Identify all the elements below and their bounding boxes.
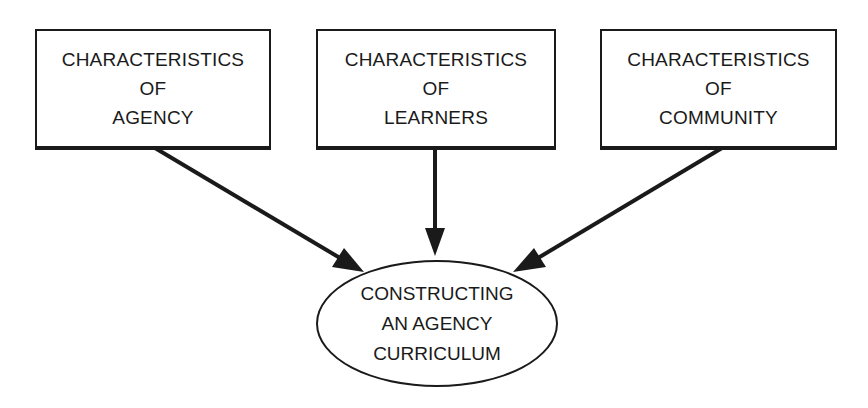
box-characteristics-of-learners: CHARACTERISTICS OF LEARNERS: [316, 29, 556, 150]
box-line: CHARACTERISTICS: [345, 45, 527, 74]
box-line: OF: [705, 74, 732, 103]
arrow-agency-to-curriculum: [155, 148, 364, 272]
ellipse-line: AN AGENCY: [382, 309, 493, 339]
box-line: OF: [423, 74, 450, 103]
box-line: CHARACTERISTICS: [627, 45, 809, 74]
ellipse-constructing-agency-curriculum: CONSTRUCTING AN AGENCY CURRICULUM: [316, 260, 558, 387]
box-line: LEARNERS: [384, 103, 488, 132]
arrow-learners-to-curriculum: [425, 148, 445, 256]
ellipse-line: CONSTRUCTING: [360, 279, 513, 309]
arrow-community-to-curriculum: [513, 148, 722, 272]
ellipse-line: CURRICULUM: [373, 339, 501, 369]
box-line: AGENCY: [112, 103, 193, 132]
box-characteristics-of-agency: CHARACTERISTICS OF AGENCY: [35, 29, 271, 150]
box-characteristics-of-community: CHARACTERISTICS OF COMMUNITY: [600, 29, 837, 150]
box-line: COMMUNITY: [659, 103, 778, 132]
box-line: OF: [140, 74, 167, 103]
box-line: CHARACTERISTICS: [62, 45, 244, 74]
